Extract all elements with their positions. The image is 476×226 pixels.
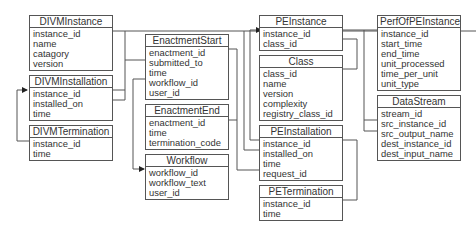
entity-title: PEInstallation xyxy=(260,126,342,138)
entity-peinstance: PEInstance instance_id class_id xyxy=(259,15,343,51)
entity-title: Class xyxy=(260,56,342,68)
entity-peinstallation: PEInstallation instance_id installed_on … xyxy=(259,125,343,181)
er-diagram: DIVMInstance instance_id name catagory v… xyxy=(0,0,476,226)
entity-perfofpeinstance: PerfOfPEInstance instance_id start_time … xyxy=(377,15,461,91)
entity-class: Class class_id name version complexity r… xyxy=(259,55,343,121)
field: time xyxy=(33,149,109,159)
field: unit_type xyxy=(381,79,457,89)
entity-divminstallation: DIVMInstallation instance_id installed_o… xyxy=(29,75,113,121)
entity-title: EnactmentEnd xyxy=(146,105,228,117)
entity-title: Workflow xyxy=(146,155,228,167)
field: time xyxy=(263,209,339,219)
entity-title: PEInstance xyxy=(260,16,342,28)
field: time xyxy=(33,109,109,119)
entity-title: PerfOfPEInstance xyxy=(378,16,460,28)
entity-petermination: PETermination instance_id time xyxy=(259,185,343,221)
entity-title: PETermination xyxy=(260,186,342,198)
entity-title: DIVMInstallation xyxy=(30,76,112,88)
field: user_id xyxy=(149,188,225,198)
entity-title: DIVMInstance xyxy=(30,16,112,28)
field: dest_input_name xyxy=(381,149,457,159)
field: user_id xyxy=(149,88,225,98)
entity-enactmentstart: EnactmentStart enactment_id submitted_to… xyxy=(145,34,229,100)
entity-workflow: Workflow workflow_id workflow_text user_… xyxy=(145,154,229,200)
entity-datastream: DataStream stream_id src_instance_id src… xyxy=(377,95,461,161)
entity-title: DataStream xyxy=(378,96,460,108)
field: registry_class_id xyxy=(263,109,339,119)
field: version xyxy=(33,59,109,69)
entity-divminstance: DIVMInstance instance_id name catagory v… xyxy=(29,15,113,71)
entity-title: EnactmentStart xyxy=(146,35,228,47)
entity-divmtermination: DIVMTermination instance_id time xyxy=(29,125,113,161)
entity-title: DIVMTermination xyxy=(30,126,112,138)
entity-enactmentend: EnactmentEnd enactment_id time terminati… xyxy=(145,104,229,150)
field: class_id xyxy=(263,39,339,49)
field: termination_code xyxy=(149,138,225,148)
field: request_id xyxy=(263,169,339,179)
